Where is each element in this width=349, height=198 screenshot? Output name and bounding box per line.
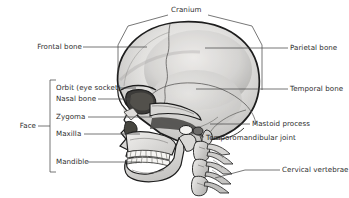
label-temporal-bone: Temporal bone (290, 85, 343, 93)
label-maxilla: Maxilla (56, 130, 81, 138)
label-orbit: Orbit (eye socket) (56, 84, 121, 92)
label-cranium: Cranium (171, 6, 201, 14)
cervical-vertebrae-illustration (191, 141, 233, 196)
label-nasal-bone: Nasal bone (56, 95, 96, 103)
label-face: Face (6, 122, 36, 130)
label-zygoma: Zygoma (56, 113, 85, 121)
label-mastoid-process: Mastoid process (252, 120, 310, 128)
label-temporomandibular-joint: Temporomandibular joint (206, 134, 296, 142)
label-cervical-vertebrae: Cervical vertebrae (282, 166, 349, 174)
label-mandible: Mandible (56, 158, 89, 166)
skull-illustration (118, 22, 260, 182)
label-parietal-bone: Parietal bone (290, 44, 337, 52)
label-frontal-bone: Frontal bone (8, 43, 82, 51)
face-bracket (38, 80, 56, 172)
